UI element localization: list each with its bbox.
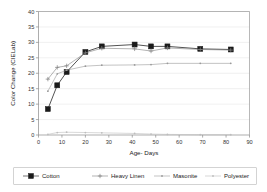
marker-masonite-6-glyph bbox=[150, 64, 152, 66]
marker-masonite-5-glyph bbox=[134, 64, 136, 66]
marker-masonite-8-glyph bbox=[199, 62, 201, 64]
legend-label-cotton: Cotton bbox=[42, 173, 60, 179]
marker-heavy-linen-5 bbox=[132, 47, 136, 51]
x-tick-label-50: 50 bbox=[153, 139, 159, 145]
marker-polyester-2-glyph bbox=[66, 131, 68, 133]
marker-polyester-8-glyph bbox=[199, 134, 201, 136]
x-tick-label-90: 90 bbox=[246, 139, 252, 145]
marker-polyester-2 bbox=[66, 131, 68, 133]
marker-polyester-5-glyph bbox=[134, 133, 136, 135]
x-tick-label-0: 0 bbox=[37, 139, 40, 145]
marker-cotton-1 bbox=[55, 83, 60, 88]
legend-marker-polyester-glyph bbox=[212, 175, 214, 177]
y-axis-title: Color Change (CIELab) bbox=[9, 41, 16, 106]
marker-polyester-7-glyph bbox=[167, 133, 169, 135]
legend-marker-cotton bbox=[29, 174, 34, 179]
marker-masonite-3-glyph bbox=[84, 65, 86, 67]
legend-marker-masonite-glyph bbox=[161, 175, 163, 177]
marker-cotton-6-glyph bbox=[149, 44, 154, 49]
marker-polyester-9 bbox=[230, 134, 232, 136]
marker-masonite-6 bbox=[150, 64, 152, 66]
marker-polyester-1-glyph bbox=[56, 132, 58, 134]
marker-masonite-4-glyph bbox=[101, 64, 103, 66]
legend-label-heavy-linen: Heavy Linen bbox=[111, 173, 144, 179]
y-tick-label-30: 30 bbox=[28, 39, 34, 45]
marker-masonite-0-glyph bbox=[47, 90, 49, 92]
marker-heavy-linen-2 bbox=[64, 64, 68, 68]
marker-polyester-3 bbox=[84, 132, 86, 134]
series-line-masonite bbox=[48, 63, 231, 91]
y-tick-label-20: 20 bbox=[28, 70, 34, 76]
series-cotton bbox=[45, 42, 233, 112]
marker-masonite-0 bbox=[47, 90, 49, 92]
marker-polyester-4 bbox=[101, 132, 103, 134]
marker-cotton-5-glyph bbox=[132, 42, 137, 47]
chart-figure: 05101520253035400102030405060708090 Age-… bbox=[0, 0, 267, 192]
x-tick-label-20: 20 bbox=[82, 139, 88, 145]
x-axis-title: Age- Days bbox=[130, 149, 159, 156]
marker-polyester-0-glyph bbox=[47, 133, 49, 135]
marker-cotton-0-glyph bbox=[45, 107, 50, 112]
axis-tick-labels: 05101520253035400102030405060708090 bbox=[28, 9, 253, 146]
y-tick-label-25: 25 bbox=[28, 55, 34, 61]
series-masonite bbox=[47, 62, 232, 92]
legend-marker-polyester bbox=[212, 175, 214, 177]
marker-polyester-6 bbox=[150, 133, 152, 135]
marker-masonite-1-glyph bbox=[56, 73, 58, 75]
marker-cotton-0 bbox=[45, 107, 50, 112]
marker-cotton-5 bbox=[132, 42, 137, 47]
marker-masonite-8 bbox=[199, 62, 201, 64]
legend-label-polyester: Polyester bbox=[224, 173, 249, 179]
series-line-cotton bbox=[48, 45, 231, 110]
series-line-polyester bbox=[48, 132, 231, 134]
y-tick-label-5: 5 bbox=[31, 117, 34, 123]
legend-marker-masonite bbox=[161, 175, 163, 177]
marker-masonite-5 bbox=[134, 64, 136, 66]
legend-entry-cotton: Cotton bbox=[23, 173, 60, 179]
x-tick-label-70: 70 bbox=[199, 139, 205, 145]
y-tick-label-15: 15 bbox=[28, 86, 34, 92]
marker-polyester-9-glyph bbox=[230, 134, 232, 136]
marker-masonite-7 bbox=[167, 62, 169, 64]
marker-masonite-9 bbox=[230, 62, 232, 64]
y-tick-label-35: 35 bbox=[28, 24, 34, 30]
marker-polyester-3-glyph bbox=[84, 132, 86, 134]
marker-masonite-9-glyph bbox=[230, 62, 232, 64]
x-tick-label-40: 40 bbox=[129, 139, 135, 145]
line-chart: 05101520253035400102030405060708090 Age-… bbox=[0, 0, 267, 192]
x-tick-label-30: 30 bbox=[106, 139, 112, 145]
gridlines bbox=[39, 12, 250, 120]
marker-masonite-3 bbox=[84, 65, 86, 67]
marker-polyester-7 bbox=[167, 133, 169, 135]
marker-polyester-4-glyph bbox=[101, 132, 103, 134]
legend-label-masonite: Masonite bbox=[173, 173, 198, 179]
marker-polyester-1 bbox=[56, 132, 58, 134]
x-tick-label-80: 80 bbox=[223, 139, 229, 145]
marker-cotton-1-glyph bbox=[55, 83, 60, 88]
marker-polyester-5 bbox=[134, 133, 136, 135]
y-tick-label-40: 40 bbox=[28, 9, 34, 15]
marker-masonite-2-glyph bbox=[66, 69, 68, 71]
chart-legend: CottonHeavy LinenMasonitePolyester bbox=[14, 168, 257, 185]
marker-polyester-0 bbox=[47, 133, 49, 135]
marker-cotton-6 bbox=[149, 44, 154, 49]
x-tick-label-10: 10 bbox=[59, 139, 65, 145]
y-tick-label-10: 10 bbox=[28, 101, 34, 107]
marker-polyester-6-glyph bbox=[150, 133, 152, 135]
marker-masonite-7-glyph bbox=[167, 62, 169, 64]
marker-masonite-4 bbox=[101, 64, 103, 66]
marker-heavy-linen-6 bbox=[149, 49, 153, 53]
x-tick-label-60: 60 bbox=[176, 139, 182, 145]
marker-masonite-1 bbox=[56, 73, 58, 75]
legend-marker-cotton-glyph bbox=[29, 174, 34, 179]
y-tick-label-0: 0 bbox=[31, 132, 34, 138]
marker-polyester-8 bbox=[199, 134, 201, 136]
marker-masonite-2 bbox=[66, 69, 68, 71]
